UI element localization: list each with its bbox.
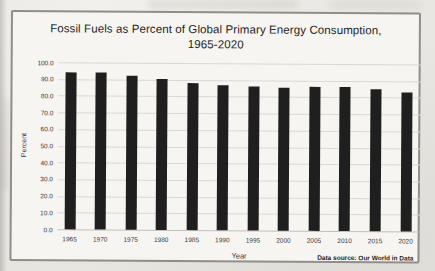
chart-frame: Fossil Fuels as Percent of Global Primar… [9, 10, 421, 263]
gridline [59, 79, 422, 82]
bar-2000 [278, 87, 290, 230]
y-tick-label: 60.0 [11, 125, 53, 132]
gridline [58, 179, 421, 182]
gridline [58, 96, 421, 99]
page-edge-shadow [0, 0, 7, 271]
x-tick-label: 1980 [146, 236, 176, 244]
x-tick-label: 1990 [207, 236, 237, 244]
y-tick-label: 40.0 [11, 159, 53, 166]
y-tick-label: 0.0 [11, 226, 53, 233]
x-tick-label: 1965 [55, 235, 85, 243]
plot-area [58, 62, 422, 232]
chart-title-line1: Fossil Fuels as Percent of Global Primar… [13, 21, 419, 38]
bleedthrough-smudge [148, 1, 298, 8]
y-tick-label: 80.0 [11, 92, 53, 99]
page: { "chart": { "title_line1": "Fossil Fuel… [0, 0, 435, 271]
x-tick-label: 2010 [330, 237, 360, 245]
bar-1975 [125, 76, 137, 230]
x-tick-label: 2005 [299, 237, 329, 245]
x-tick-label: 2015 [360, 237, 390, 245]
gridline [58, 129, 421, 132]
y-tick-label: 20.0 [11, 192, 53, 199]
bar-2010 [339, 87, 351, 231]
x-tick-label: 1995 [238, 236, 268, 244]
chart-title-line2: 1965-2020 [13, 36, 419, 53]
gridline [58, 146, 421, 149]
x-tick-label: 1970 [85, 235, 115, 243]
gridline [58, 213, 421, 216]
bar-2015 [370, 89, 382, 232]
x-tick-label: 1985 [177, 236, 207, 244]
bar-2020 [400, 93, 412, 232]
bleedthrough-smudge [330, 2, 420, 8]
y-tick-label: 70.0 [11, 109, 53, 116]
y-axis-tick-labels: 100.090.080.070.060.050.040.030.020.010.… [12, 62, 55, 229]
bar-1980 [156, 79, 168, 230]
x-tick-label: 1975 [116, 236, 146, 244]
x-tick-label: 2000 [268, 237, 298, 245]
y-tick-label: 10.0 [11, 209, 53, 216]
bar-1990 [217, 85, 229, 230]
y-tick-label: 50.0 [11, 142, 53, 149]
bar-2005 [309, 87, 321, 231]
y-tick-label: 30.0 [11, 175, 53, 182]
data-source-note: Data source: Our World in Data [317, 254, 413, 262]
bar-1985 [186, 83, 198, 230]
gridline [58, 196, 421, 199]
chart-title: Fossil Fuels as Percent of Global Primar… [13, 21, 419, 53]
gridline [59, 62, 422, 65]
gridline [58, 112, 421, 115]
bleedthrough-smudge [2, 100, 10, 190]
x-tick-label: 2020 [391, 237, 421, 245]
y-tick-label: 90.0 [12, 75, 54, 82]
bar-1970 [95, 73, 107, 230]
gridline [58, 162, 421, 165]
x-axis-tick-labels: 1965197019751980198519901995200020052010… [58, 235, 421, 246]
bar-1965 [64, 73, 76, 230]
bar-1995 [247, 86, 259, 230]
y-tick-label: 100.0 [12, 59, 54, 66]
